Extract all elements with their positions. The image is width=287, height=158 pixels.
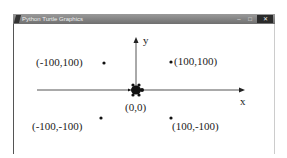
window-border-right [274, 24, 275, 154]
point-label-100-100: (100,100) [174, 55, 217, 67]
close-button[interactable]: ✕ [257, 15, 273, 23]
point-label-100-neg100: (100,-100) [172, 120, 219, 132]
point-dot-neg100-100 [102, 61, 105, 64]
y-axis-label: y [143, 34, 149, 46]
window-title: Python Turtle Graphics [22, 14, 83, 24]
point-dot-100-100 [169, 60, 172, 63]
minimize-button[interactable]: – [233, 15, 245, 23]
title-bar[interactable]: Python Turtle Graphics – □ ✕ [13, 14, 275, 24]
turtle-canvas[interactable]: y x (0,0) (-100,100) (100,100) (-100,-10… [14, 24, 274, 152]
point-dot-neg100-neg100 [99, 116, 102, 119]
y-axis-arrow-icon [134, 37, 139, 43]
maximize-button[interactable]: □ [245, 15, 255, 23]
feather-icon [14, 15, 21, 23]
origin-label: (0,0) [125, 101, 146, 113]
point-label-neg100-100: (-100,100) [36, 56, 83, 68]
x-axis-arrow-icon [239, 88, 245, 93]
x-axis-label: x [240, 95, 246, 107]
point-label-neg100-neg100: (-100,-100) [32, 120, 82, 132]
turtle-window: Python Turtle Graphics – □ ✕ [13, 14, 275, 154]
